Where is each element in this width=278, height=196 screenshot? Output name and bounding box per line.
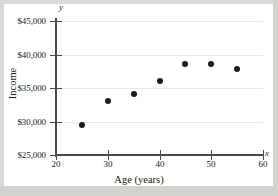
x-axis-tick-label: 60: [251, 159, 275, 169]
data-point: [234, 66, 240, 72]
y-axis-tick: [50, 88, 62, 89]
data-point: [208, 61, 214, 67]
gridline-y: [56, 55, 263, 56]
x-axis-line: [55, 154, 263, 156]
x-axis-letter: x: [265, 148, 269, 158]
data-point: [131, 91, 137, 97]
y-axis-tick-label: $30,000: [17, 117, 46, 127]
gridline-y: [56, 88, 263, 89]
y-axis-letter: y: [59, 2, 63, 12]
scatter-plot-figure: y x Age (years) Income $25,000$30,000$35…: [0, 0, 278, 196]
y-axis-title: Income: [7, 49, 18, 119]
data-point: [182, 61, 188, 67]
x-axis-tick-label: 20: [44, 159, 68, 169]
data-point: [105, 98, 111, 104]
x-axis-tick-label: 40: [148, 159, 172, 169]
y-axis-tick: [50, 122, 62, 123]
gridline-y: [56, 21, 263, 22]
data-point: [79, 122, 85, 128]
y-axis-tick: [50, 21, 62, 22]
gridline-y: [56, 122, 263, 123]
x-axis-tick-label: 30: [96, 159, 120, 169]
y-axis-tick-label: $35,000: [17, 83, 46, 93]
y-axis-tick-label: $25,000: [17, 150, 46, 160]
y-axis-tick: [50, 55, 62, 56]
y-axis-tick-label: $45,000: [17, 16, 46, 26]
data-point: [157, 78, 163, 84]
x-axis-title: Age (years): [0, 174, 278, 185]
y-axis-tick-label: $40,000: [17, 50, 46, 60]
plot-area: y x Age (years) Income $25,000$30,000$35…: [0, 0, 278, 196]
x-axis-tick-label: 50: [199, 159, 223, 169]
